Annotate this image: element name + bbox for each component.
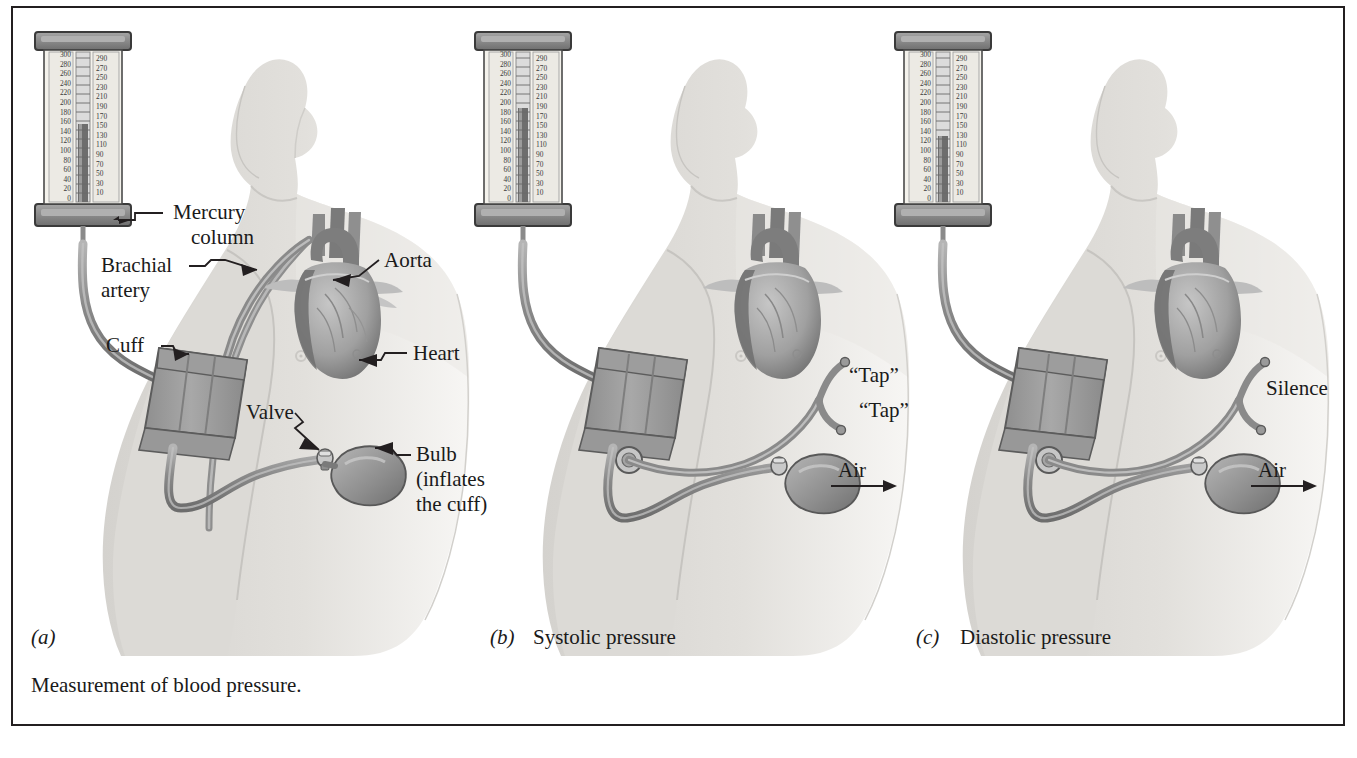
manometer-scale-left-tick: 160 — [920, 117, 931, 126]
blood-pressure-cuff — [579, 348, 687, 460]
manometer-scale-left-tick: 0 — [507, 194, 511, 203]
label-brachial-artery: Brachial artery — [101, 253, 172, 303]
blood-pressure-cuff — [999, 348, 1107, 460]
manometer-scale-right-tick: 70 — [956, 160, 964, 169]
manometer-scale-left-tick: 80 — [64, 156, 72, 165]
panel-tag-b: (b) — [490, 625, 515, 650]
manometer-scale-right-tick: 130 — [96, 131, 107, 140]
manometer-scale-right-tick: 130 — [956, 131, 967, 140]
manometer-scale-right-tick: 150 — [536, 121, 547, 130]
manometer-scale-left-tick: 60 — [504, 165, 512, 174]
panel-b: 3002802602402202001801601401201008060402… — [453, 8, 913, 668]
manometer-tubing — [522, 244, 599, 380]
label-cuff: Cuff — [106, 333, 144, 358]
manometer-scale-left-tick: 0 — [67, 194, 71, 203]
manometer-scale-left-tick: 240 — [500, 79, 511, 88]
manometer-scale-right-tick: 150 — [956, 121, 967, 130]
manometer-scale-left-tick: 140 — [60, 127, 71, 136]
manometer-tubing — [942, 244, 1019, 380]
panel-a-artwork: 3002802602402202001801601401201008060402… — [13, 8, 483, 668]
manometer-scale-left-tick: 20 — [64, 184, 72, 193]
manometer-scale-right-tick: 170 — [96, 112, 107, 121]
manometer-scale-left-tick: 200 — [920, 98, 931, 107]
figure-caption: Measurement of blood pressure. — [31, 673, 302, 698]
manometer-scale-right-tick: 270 — [536, 64, 547, 73]
mercury-manometer: 3002802602402202001801601401201008060402… — [895, 32, 991, 244]
manometer-scale-left-tick: 140 — [920, 127, 931, 136]
manometer-scale-left-tick: 260 — [500, 69, 511, 78]
manometer-scale-right-tick: 50 — [96, 169, 104, 178]
label-air-b: Air — [838, 458, 866, 483]
label-brachial-artery-line2: artery — [101, 278, 172, 303]
manometer-scale-right-tick: 250 — [536, 73, 547, 82]
manometer-scale-right-tick: 50 — [536, 169, 544, 178]
manometer-scale-right-tick: 10 — [536, 188, 544, 197]
manometer-scale-left-tick: 300 — [60, 50, 71, 59]
figure-page: 3002802602402202001801601401201008060402… — [0, 0, 1357, 758]
manometer-scale-left-tick: 100 — [60, 146, 71, 155]
manometer-scale-left-tick: 80 — [504, 156, 512, 165]
mercury-manometer: 3002802602402202001801601401201008060402… — [475, 32, 571, 244]
label-mercury-column: Mercury column — [173, 200, 254, 250]
manometer-scale-right-tick: 30 — [956, 179, 964, 188]
manometer-scale-left-tick: 220 — [60, 88, 71, 97]
panel-tag-a: (a) — [31, 625, 56, 650]
manometer-scale-left-tick: 260 — [60, 69, 71, 78]
panel-a: 3002802602402202001801601401201008060402… — [13, 8, 483, 668]
manometer-scale-right-tick: 50 — [956, 169, 964, 178]
manometer-scale-left-tick: 180 — [920, 108, 931, 117]
manometer-scale-right-tick: 270 — [956, 64, 967, 73]
panel-b-artwork: 3002802602402202001801601401201008060402… — [453, 8, 913, 668]
blood-pressure-cuff — [139, 348, 247, 460]
manometer-scale-left-tick: 160 — [60, 117, 71, 126]
manometer-scale-left-tick: 20 — [924, 184, 932, 193]
label-valve: Valve — [246, 400, 294, 425]
figure-frame: 3002802602402202001801601401201008060402… — [11, 6, 1345, 726]
manometer-scale-right-tick: 210 — [536, 92, 547, 101]
manometer-scale-right-tick: 290 — [536, 54, 547, 63]
manometer-scale-right-tick: 170 — [956, 112, 967, 121]
panel-c: 3002802602402202001801601401201008060402… — [873, 8, 1343, 668]
manometer-scale-left-tick: 100 — [920, 146, 931, 155]
manometer-scale-right-tick: 250 — [956, 73, 967, 82]
manometer-scale-left-tick: 100 — [500, 146, 511, 155]
label-brachial-artery-line1: Brachial — [101, 253, 172, 278]
manometer-scale-left-tick: 20 — [504, 184, 512, 193]
manometer-scale-right-tick: 150 — [96, 121, 107, 130]
manometer-scale-left-tick: 280 — [920, 60, 931, 69]
manometer-scale-left-tick: 40 — [64, 175, 72, 184]
manometer-scale-right-tick: 250 — [96, 73, 107, 82]
manometer-scale-left-tick: 60 — [64, 165, 72, 174]
manometer-scale-right-tick: 290 — [956, 54, 967, 63]
manometer-scale-left-tick: 120 — [920, 136, 931, 145]
manometer-scale-right-tick: 190 — [956, 102, 967, 111]
manometer-scale-left-tick: 280 — [500, 60, 511, 69]
manometer-scale-right-tick: 210 — [956, 92, 967, 101]
manometer-scale-right-tick: 110 — [96, 140, 107, 149]
manometer-scale-right-tick: 110 — [536, 140, 547, 149]
manometer-scale-left-tick: 280 — [60, 60, 71, 69]
manometer-scale-right-tick: 230 — [96, 83, 107, 92]
panel-c-artwork: 3002802602402202001801601401201008060402… — [873, 8, 1343, 668]
release-valve — [771, 457, 787, 475]
panel-title-c: Diastolic pressure — [960, 625, 1111, 650]
manometer-scale-left-tick: 220 — [500, 88, 511, 97]
label-silence: Silence — [1266, 376, 1328, 401]
manometer-scale-left-tick: 80 — [924, 156, 932, 165]
manometer-scale-right-tick: 110 — [956, 140, 967, 149]
manometer-scale-right-tick: 210 — [96, 92, 107, 101]
mercury-manometer: 3002802602402202001801601401201008060402… — [35, 32, 131, 244]
manometer-scale-left-tick: 180 — [60, 108, 71, 117]
manometer-scale-right-tick: 90 — [956, 150, 964, 159]
manometer-scale-right-tick: 90 — [536, 150, 544, 159]
manometer-scale-right-tick: 190 — [536, 102, 547, 111]
label-mercury-column-line2: column — [191, 225, 254, 250]
manometer-scale-left-tick: 300 — [920, 50, 931, 59]
manometer-scale-right-tick: 30 — [96, 179, 104, 188]
label-mercury-column-line1: Mercury — [173, 200, 254, 225]
manometer-scale-right-tick: 230 — [956, 83, 967, 92]
manometer-scale-right-tick: 270 — [96, 64, 107, 73]
manometer-scale-left-tick: 200 — [60, 98, 71, 107]
manometer-scale-left-tick: 200 — [500, 98, 511, 107]
manometer-scale-right-tick: 230 — [536, 83, 547, 92]
